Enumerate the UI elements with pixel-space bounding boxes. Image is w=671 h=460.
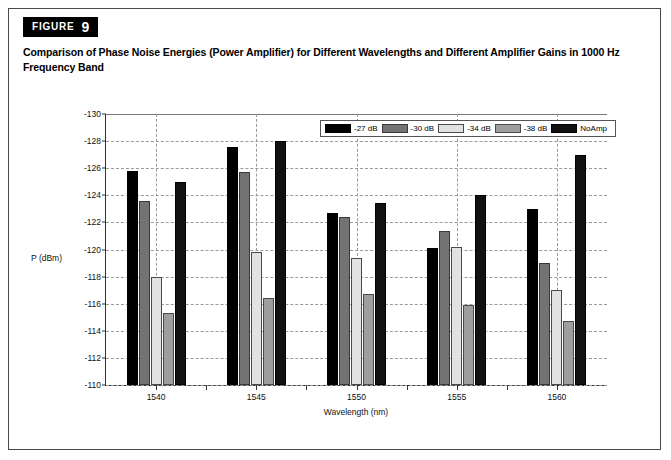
bar-1555--38dB (463, 305, 474, 385)
legend-swatch-icon (325, 124, 351, 133)
y-tick-mark (102, 357, 106, 358)
y-tick-label: -120 (84, 245, 101, 255)
y-tick-mark (102, 195, 106, 196)
y-tick-mark (102, 168, 106, 169)
bar-1560-NoAmp (575, 155, 586, 385)
bar-1540--34dB (151, 277, 162, 385)
bar-1550--30dB (339, 217, 350, 385)
legend-item--27dB: -27 dB (325, 124, 382, 133)
x-tick-label: 1555 (447, 392, 466, 402)
legend-swatch-icon (438, 124, 464, 133)
x-axis-title: Wavelength (nm) (105, 407, 607, 417)
bar-1540--30dB (139, 201, 150, 385)
y-tick-mark (102, 385, 106, 386)
bar-1550--34dB (351, 258, 362, 385)
y-tick-label: -124 (84, 190, 101, 200)
y-tick-mark (102, 249, 106, 250)
bar-1545--30dB (239, 172, 250, 385)
figure-frame: FIGURE 9 Comparison of Phase Noise Energ… (8, 8, 661, 450)
y-axis-title: P (dBm) (31, 253, 62, 263)
plot-box: -130-128-126-124-122-120-118-116-114-112… (105, 114, 607, 386)
legend-label: -34 dB (467, 124, 491, 133)
chart-area: P (dBm) -130-128-126-124-122-120-118-116… (9, 9, 661, 450)
x-group-divider-tick (507, 385, 508, 390)
bar-1560--27dB (527, 209, 538, 385)
y-tick-mark (102, 303, 106, 304)
bar-1545--27dB (227, 147, 238, 385)
x-tick-label: 1545 (247, 392, 266, 402)
y-tick-mark (102, 222, 106, 223)
y-tick-label: -130 (84, 109, 101, 119)
x-group-divider-tick (407, 385, 408, 390)
legend-swatch-icon (551, 124, 577, 133)
legend-swatch-icon (495, 124, 521, 133)
legend-item--30dB: -30 dB (382, 124, 439, 133)
bar-1550--27dB (327, 213, 338, 385)
y-tick-label: -118 (85, 272, 101, 282)
bar-1560--38dB (563, 321, 574, 385)
legend-swatch-icon (382, 124, 408, 133)
bar-1555-NoAmp (475, 195, 486, 385)
bar-1540--38dB (163, 313, 174, 385)
y-tick-label: -116 (85, 299, 101, 309)
x-tick-mark (156, 385, 157, 390)
legend-label: -38 dB (524, 124, 548, 133)
bar-1550--38dB (363, 294, 374, 385)
bar-1560--34dB (551, 290, 562, 385)
x-tick-label: 1540 (147, 392, 166, 402)
bar-1545-NoAmp (275, 141, 286, 385)
x-tick-mark (256, 385, 257, 390)
bar-1555--34dB (451, 247, 462, 385)
legend-item--34dB: -34 dB (438, 124, 495, 133)
bar-1550-NoAmp (375, 203, 386, 385)
bar-1555--30dB (439, 231, 450, 385)
x-group-divider-tick (306, 385, 307, 390)
legend-label: -30 dB (411, 124, 435, 133)
y-tick-label: -126 (84, 163, 101, 173)
legend-label: -27 dB (354, 124, 378, 133)
y-tick-mark (102, 330, 106, 331)
y-tick-mark (102, 114, 106, 115)
x-tick-mark (457, 385, 458, 390)
y-tick-label: -114 (85, 326, 101, 336)
x-tick-label: 1560 (547, 392, 566, 402)
y-tick-label: -110 (85, 380, 101, 390)
y-tick-label: -112 (85, 353, 101, 363)
bar-1555--27dB (427, 248, 438, 385)
y-tick-mark (102, 141, 106, 142)
y-tick-mark (102, 276, 106, 277)
y-tick-label: -122 (84, 217, 101, 227)
bar-1545--34dB (251, 252, 262, 385)
bar-1560--30dB (539, 263, 550, 385)
bar-1540--27dB (127, 171, 138, 385)
x-tick-label: 1550 (347, 392, 366, 402)
chart-legend: -27 dB-30 dB-34 dB-38 dBNoAmp (320, 120, 616, 137)
bar-1540-NoAmp (175, 182, 186, 385)
bar-1545--38dB (263, 298, 274, 385)
x-tick-mark (357, 385, 358, 390)
x-tick-mark (557, 385, 558, 390)
legend-item-NoAmp: NoAmp (551, 124, 611, 133)
legend-label: NoAmp (580, 124, 607, 133)
x-group-divider-tick (206, 385, 207, 390)
y-tick-label: -128 (84, 136, 101, 146)
legend-item--38dB: -38 dB (495, 124, 552, 133)
